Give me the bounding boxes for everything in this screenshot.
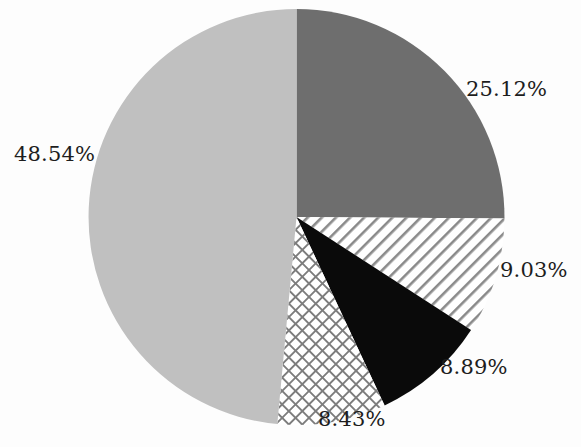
slice-label-843: 8.43% xyxy=(318,409,386,430)
slice-label-889: 8.89% xyxy=(440,357,508,378)
pie-slice-25.12 xyxy=(297,9,505,219)
slice-label-25: 25.12% xyxy=(466,79,547,100)
slice-label-9: 9.03% xyxy=(500,260,568,281)
slice-label-4854: 48.54% xyxy=(14,144,95,165)
pie-chart-canvas xyxy=(0,0,581,447)
pie-slice-48.54 xyxy=(89,9,297,424)
pie-chart-figure: 25.12% 9.03% 8.89% 8.43% 48.54% xyxy=(0,0,581,447)
